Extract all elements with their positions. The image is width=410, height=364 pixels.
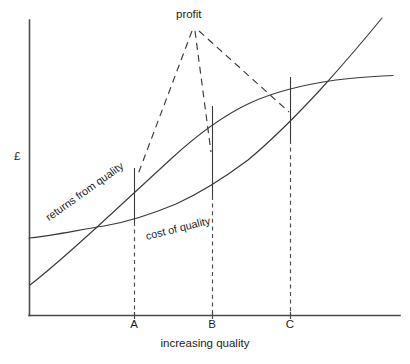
profit-leader-line-b — [195, 31, 211, 152]
x-tick-label-b: B — [202, 319, 222, 331]
cost-of-quality-curve — [29, 18, 382, 238]
profit-leader-line-c — [199, 31, 289, 112]
profit-annotation-label: profit — [176, 9, 202, 21]
quality-cost-returns-figure: £ increasing quality profit returns from… — [0, 0, 410, 364]
x-axis-label: increasing quality — [0, 338, 410, 350]
profit-leader-line-a — [137, 31, 192, 177]
x-tick-label-a: A — [124, 319, 144, 331]
y-axis-label: £ — [14, 151, 20, 163]
returns-from-quality-curve — [30, 76, 393, 286]
chart-canvas — [0, 0, 410, 364]
figure-caption — [4, 356, 410, 364]
x-tick-label-c: C — [280, 319, 300, 331]
